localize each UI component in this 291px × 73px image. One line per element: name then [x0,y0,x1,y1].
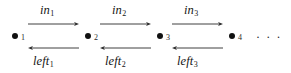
edge-label-left-3-base: left [177,54,193,68]
edge-label-in-1-base: in [40,3,50,17]
edge-label-left-2: left2 [105,55,125,69]
node-4-label: 4 [238,34,242,42]
edge-label-left-1: left1 [33,55,53,69]
edge-label-in-2: in2 [112,4,126,18]
edge-label-left-1-sub: 1 [50,60,54,69]
edge-label-left-1-base: left [33,54,49,68]
arrow-in-1 [28,22,79,26]
edge-label-left-2-base: left [105,54,121,68]
arrow-in-3 [172,22,223,26]
edge-label-left-3-sub: 3 [194,60,198,69]
edge-label-in-3-sub: 3 [194,9,198,18]
node-2-label: 2 [94,34,98,42]
edge-label-left-2-sub: 2 [122,60,126,69]
node-1-label: 1 [21,34,25,42]
arrow-in-2 [100,22,151,26]
edge-label-in-3-base: in [184,3,194,17]
arrow-left-2 [100,46,151,50]
node-2-dot [85,33,91,39]
edge-label-left-3: left3 [177,55,197,69]
continuation-ellipsis: · · · [256,31,282,43]
transition-diagram: in1 in2 in3 left1 left2 left3 1 2 3 4 · … [0,0,291,73]
arrow-left-3 [172,46,223,50]
arrow-left-1 [28,46,79,50]
node-1-dot [12,33,18,39]
edge-label-in-2-base: in [112,3,122,17]
edge-label-in-2-sub: 2 [122,9,126,18]
node-4-dot [229,33,235,39]
edge-label-in-3: in3 [184,4,198,18]
node-3-dot [157,33,163,39]
node-3-label: 3 [166,34,170,42]
edge-label-in-1: in1 [40,4,54,18]
edge-label-in-1-sub: 1 [50,9,54,18]
